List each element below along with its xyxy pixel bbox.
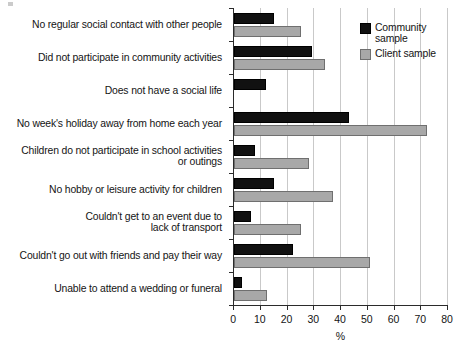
legend-label-client: Client sample [375, 48, 436, 59]
bar-client-sample [234, 257, 370, 268]
bar-community-sample [234, 277, 242, 288]
category-label: No hobby or leisure activity for childre… [0, 184, 222, 196]
x-axis-tick [420, 306, 421, 310]
y-axis-tick [229, 140, 233, 141]
scan-artifact-speck [8, 2, 13, 6]
category-label: Couldn't go out with friends and pay the… [0, 250, 222, 262]
y-axis-tick [229, 173, 233, 174]
bar-community-sample [234, 13, 274, 24]
y-axis-tick [229, 305, 233, 306]
legend-item-client: Client sample [360, 48, 448, 60]
category-label: Does not have a social life [0, 85, 222, 97]
y-axis-tick [229, 272, 233, 273]
bar-community-sample [234, 244, 293, 255]
x-axis-tick-label: 0 [230, 313, 236, 325]
plot-area: 01020304050607080 Community sample Clien… [233, 8, 448, 306]
x-axis-tick-label: 70 [415, 313, 426, 325]
x-axis-tick-label: 20 [281, 313, 292, 325]
legend-item-community: Community sample [360, 22, 448, 45]
category-label: Did not participate in community activit… [0, 52, 222, 64]
bar-chart-figure: No regular social contact with other peo… [0, 0, 455, 350]
chart-legend: Community sample Client sample [360, 22, 448, 63]
legend-swatch-community-icon [360, 23, 371, 34]
legend-swatch-client-icon [360, 49, 371, 60]
x-axis-tick-label: 40 [334, 313, 345, 325]
bar-community-sample [234, 211, 251, 222]
bar-client-sample [234, 290, 267, 301]
x-axis-tick [367, 306, 368, 310]
category-label: Unable to attend a wedding or funeral [0, 283, 222, 295]
bar-client-sample [234, 26, 301, 37]
x-axis-tick-label: 50 [361, 313, 372, 325]
category-label-column: No regular social contact with other peo… [0, 8, 228, 306]
x-axis-tick [313, 306, 314, 310]
x-axis-tick-label: 60 [388, 313, 399, 325]
bar-client-sample [234, 158, 309, 169]
bar-client-sample [234, 191, 333, 202]
legend-label-community: Community sample [375, 22, 426, 45]
bar-community-sample [234, 112, 349, 123]
x-axis-tick [260, 306, 261, 310]
category-label: No regular social contact with other peo… [0, 19, 222, 31]
y-axis-tick [229, 41, 233, 42]
y-axis-tick [229, 107, 233, 108]
y-axis-tick [229, 239, 233, 240]
x-axis-tick-label: 10 [254, 313, 265, 325]
bar-client-sample [234, 125, 427, 136]
y-axis-tick [229, 8, 233, 9]
x-axis-tick-label: 30 [308, 313, 319, 325]
x-axis-tick [233, 306, 234, 310]
bar-community-sample [234, 46, 312, 57]
x-axis-tick-label: 80 [441, 313, 452, 325]
y-axis-tick [229, 206, 233, 207]
category-label: Couldn't get to an event due to lack of … [0, 211, 222, 234]
category-label: Children do not participate in school ac… [0, 145, 222, 168]
x-axis-tick [394, 306, 395, 310]
x-axis-tick [447, 306, 448, 310]
x-axis-tick [287, 306, 288, 310]
bar-community-sample [234, 178, 274, 189]
bar-client-sample [234, 59, 325, 70]
y-axis-tick [229, 74, 233, 75]
x-axis-line [233, 305, 448, 306]
bar-client-sample [234, 224, 301, 235]
bar-community-sample [234, 145, 255, 156]
bar-community-sample [234, 79, 266, 90]
x-axis-tick [340, 306, 341, 310]
category-label: No week's holiday away from home each ye… [0, 118, 222, 130]
x-axis-title: % [233, 330, 448, 342]
